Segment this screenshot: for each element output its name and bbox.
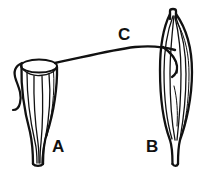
label-c: C xyxy=(118,25,130,44)
label-a: A xyxy=(52,137,64,156)
label-b: B xyxy=(146,137,158,156)
figure-container: A C xyxy=(0,0,209,176)
line-drawing-svg: A C xyxy=(0,0,209,176)
